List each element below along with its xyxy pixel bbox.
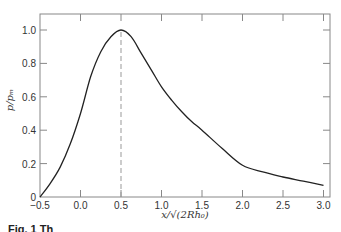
y-tick-label: 1.0: [22, 25, 36, 36]
y-tick-label: 0.4: [22, 125, 36, 136]
pressure-curve: [40, 30, 324, 197]
x-tick-label: 2.5: [276, 200, 290, 211]
x-axis-label: x/√(2Rh₀): [161, 209, 209, 220]
plot-frame: [40, 14, 330, 197]
y-tick-labels: 00.20.40.60.81.0: [22, 25, 36, 203]
pressure-distribution-chart: −0.50.00.51.01.52.02.53.0 00.20.40.60.81…: [0, 0, 341, 232]
x-tick-label: 0.0: [74, 200, 88, 211]
y-tick-label: 0: [30, 192, 36, 203]
y-tick-label: 0.2: [22, 159, 36, 170]
x-tick-label: 0.5: [114, 200, 128, 211]
x-tick-label: 2.0: [236, 200, 250, 211]
y-axis-label: p/pₘ: [4, 89, 15, 111]
y-tick-label: 0.8: [22, 58, 36, 69]
y-tick-label: 0.6: [22, 92, 36, 103]
axis-ticks: [40, 14, 330, 197]
x-tick-label: 3.0: [317, 200, 331, 211]
figure-caption: Fig. 1 Th: [8, 223, 53, 232]
axes-box: [40, 14, 330, 197]
